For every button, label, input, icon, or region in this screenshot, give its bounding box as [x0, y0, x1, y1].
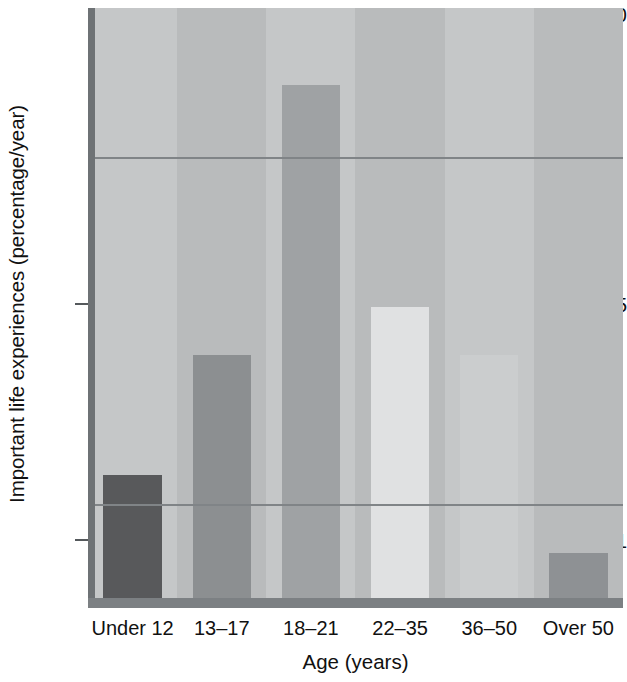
x-axis-title: Age (years)	[88, 652, 623, 673]
y-tick-mark-5	[75, 303, 88, 305]
x-tick-label-36-50: 36–50	[445, 618, 534, 638]
bar-18-21	[282, 85, 340, 608]
x-tick-label-18-21: 18–21	[266, 618, 355, 638]
x-tick-label-22-35: 22–35	[356, 618, 445, 638]
plot-area	[88, 8, 623, 608]
x-axis-spine	[88, 598, 623, 608]
y-axis-title: Important life experiences (percentage/y…	[0, 0, 34, 608]
y-tick-mark-1	[75, 539, 88, 541]
bar-22-35	[371, 307, 429, 608]
bar-chart-figure: Important life experiences (percentage/y…	[0, 0, 627, 682]
bar-under-12	[103, 475, 161, 608]
gridline-5	[88, 157, 623, 159]
bar-13-17	[193, 355, 251, 608]
x-tick-label-over-50: Over 50	[534, 618, 623, 638]
bar-36-50	[460, 355, 518, 608]
x-tick-label-13-17: 13–17	[177, 618, 266, 638]
y-axis-spine	[88, 8, 95, 608]
x-tick-label-under-12: Under 12	[88, 618, 177, 638]
gridline-1	[88, 504, 623, 506]
